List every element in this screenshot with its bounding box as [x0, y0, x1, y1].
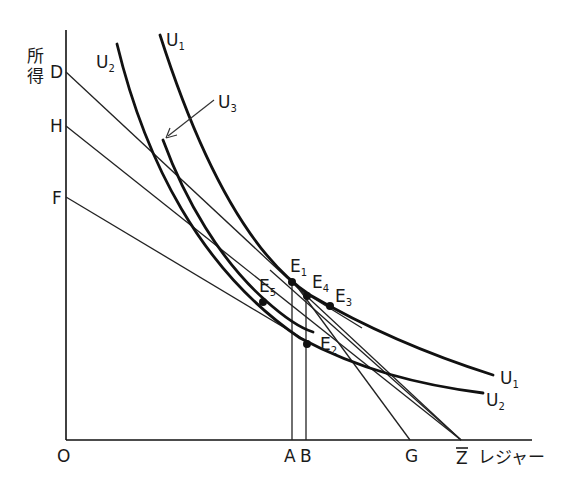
y-axis-label-2: 得	[27, 66, 44, 86]
point-E3	[326, 302, 334, 310]
x-tick-B: B	[300, 446, 312, 466]
curve-U1	[160, 35, 493, 375]
curve-label-U1-top: U1	[166, 30, 185, 52]
curve-label-U2-right: U2	[486, 390, 505, 412]
point-label-E4: E4	[312, 272, 329, 294]
point-label-E3: E3	[335, 286, 352, 308]
point-E1	[288, 278, 296, 286]
y-tick-F: F	[52, 188, 62, 208]
curve-U2	[117, 44, 483, 393]
x-tick-G: G	[405, 446, 418, 466]
point-E4	[303, 292, 311, 300]
x-tick-A: A	[284, 446, 296, 466]
y-tick-D: D	[50, 62, 63, 82]
curve-label-U3: U3	[218, 92, 237, 114]
y-tick-H: H	[50, 116, 63, 136]
arrow-U3	[168, 100, 214, 136]
y-axis-label-1: 所	[27, 46, 44, 66]
curve-label-U2-top: U2	[96, 52, 115, 74]
budget-line-D-Zbar	[66, 72, 461, 440]
curve-label-U1-right: U1	[500, 368, 519, 390]
point-label-E1: E1	[290, 256, 307, 278]
labor-leisure-diagram: 所 得 D H F O A B G Z レジャー U1 U2 U3 U1 U2 …	[0, 0, 570, 502]
curve-U3	[163, 140, 313, 332]
point-E5	[259, 298, 267, 306]
point-label-E5: E5	[259, 276, 276, 298]
x-axis-label: レジャー	[478, 447, 545, 467]
x-tick-Zbar: Z	[456, 448, 468, 468]
origin-label: O	[57, 446, 70, 466]
point-E2	[303, 340, 311, 348]
